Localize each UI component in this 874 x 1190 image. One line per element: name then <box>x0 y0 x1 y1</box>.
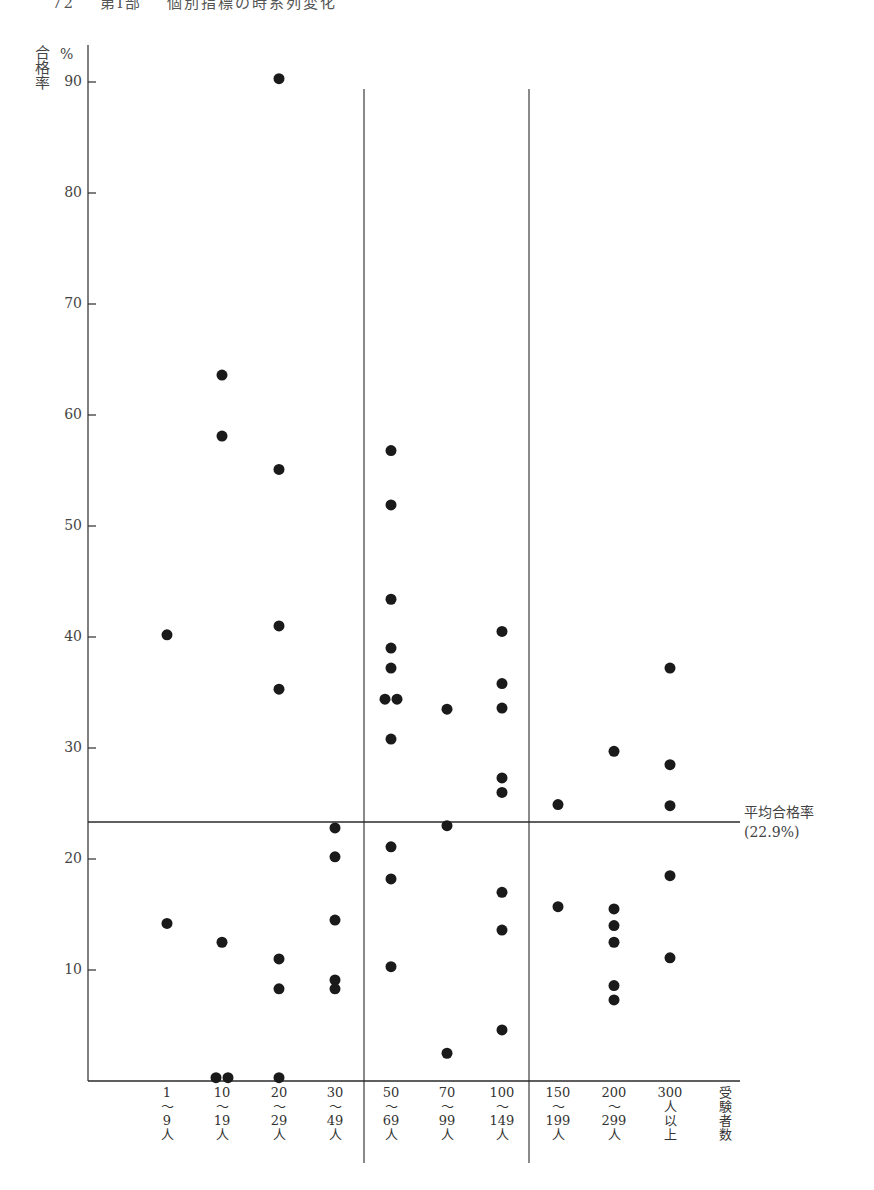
data-point <box>223 1072 234 1083</box>
x-category-label: 1〜9人 <box>147 1086 187 1142</box>
data-point <box>665 800 676 811</box>
x-category-label-part: 50 <box>371 1086 411 1100</box>
data-point <box>274 1072 285 1083</box>
data-point <box>392 694 403 705</box>
data-point <box>442 1048 453 1059</box>
average-value-text: (22.9%) <box>744 822 814 842</box>
x-category-label-part: 〜 <box>538 1100 578 1114</box>
data-point <box>330 915 341 926</box>
data-point <box>274 983 285 994</box>
data-point <box>217 431 228 442</box>
y-tick-label: 90 <box>52 73 82 89</box>
y-tick-label: 30 <box>52 739 82 755</box>
x-category-label-part: 200 <box>594 1086 634 1100</box>
data-point <box>497 925 508 936</box>
data-point <box>665 759 676 770</box>
scatter-plot <box>0 0 874 1190</box>
data-point <box>497 772 508 783</box>
data-point <box>442 820 453 831</box>
x-category-label-part: 9 <box>147 1114 187 1128</box>
x-category-label-part: 69 <box>371 1114 411 1128</box>
y-tick-label: 20 <box>52 850 82 866</box>
data-point <box>609 937 620 948</box>
x-category-label-part: 人 <box>371 1128 411 1142</box>
data-point <box>497 787 508 798</box>
x-category-label-part: 30 <box>315 1086 355 1100</box>
data-point <box>497 626 508 637</box>
data-point <box>665 870 676 881</box>
data-point <box>386 445 397 456</box>
data-point <box>162 918 173 929</box>
x-category-label-part: 300 <box>650 1086 690 1100</box>
data-point <box>609 920 620 931</box>
y-tick-label: 70 <box>52 295 82 311</box>
x-category-label-part: 〜 <box>427 1100 467 1114</box>
x-category-label: 20〜29人 <box>259 1086 299 1142</box>
data-point <box>274 620 285 631</box>
data-point <box>386 594 397 605</box>
data-point <box>274 464 285 475</box>
x-category-label-part: 人 <box>427 1128 467 1142</box>
data-point <box>386 663 397 674</box>
x-category-label-part: 人 <box>594 1128 634 1142</box>
data-point <box>553 799 564 810</box>
data-point <box>274 73 285 84</box>
x-axis-title-char: 受 <box>705 1086 745 1100</box>
data-point <box>386 643 397 654</box>
y-tick-label: 80 <box>52 184 82 200</box>
data-point <box>609 980 620 991</box>
x-axis-title-char: 験 <box>705 1100 745 1114</box>
x-category-label: 10〜19人 <box>202 1086 242 1142</box>
x-category-label-part: 100 <box>482 1086 522 1100</box>
average-label-text: 平均合格率 <box>744 802 814 822</box>
x-category-label-part: 150 <box>538 1086 578 1100</box>
data-point <box>217 937 228 948</box>
data-point <box>609 903 620 914</box>
data-point <box>665 952 676 963</box>
x-category-label-part: 20 <box>259 1086 299 1100</box>
x-category-label-part: 人 <box>315 1128 355 1142</box>
data-point <box>497 887 508 898</box>
x-category-label: 50〜69人 <box>371 1086 411 1142</box>
data-point <box>386 499 397 510</box>
data-point <box>609 746 620 757</box>
x-category-label-part: 〜 <box>315 1100 355 1114</box>
data-point <box>386 873 397 884</box>
data-point <box>497 703 508 714</box>
y-tick-label: 40 <box>52 628 82 644</box>
data-point <box>442 704 453 715</box>
x-category-label-part: 以 <box>650 1114 690 1128</box>
data-point <box>162 629 173 640</box>
x-category-label-part: 人 <box>259 1128 299 1142</box>
x-category-label-part: 人 <box>202 1128 242 1142</box>
x-category-label-part: 人 <box>538 1128 578 1142</box>
data-point <box>497 678 508 689</box>
x-category-label-part: 29 <box>259 1114 299 1128</box>
data-point <box>274 953 285 964</box>
x-category-label-part: 99 <box>427 1114 467 1128</box>
data-point <box>386 734 397 745</box>
y-tick-label: 60 <box>52 406 82 422</box>
data-point <box>386 841 397 852</box>
data-point <box>380 694 391 705</box>
x-category-label-part: 〜 <box>371 1100 411 1114</box>
x-category-label: 150〜199人 <box>538 1086 578 1142</box>
x-category-label-part: 10 <box>202 1086 242 1100</box>
data-point <box>274 684 285 695</box>
x-category-label-part: 人 <box>650 1100 690 1114</box>
y-tick-label: 10 <box>52 961 82 977</box>
x-category-label-part: 1 <box>147 1086 187 1100</box>
x-category-label-part: 〜 <box>482 1100 522 1114</box>
y-tick-label: 50 <box>52 517 82 533</box>
x-category-label-part: 19 <box>202 1114 242 1128</box>
data-point <box>665 663 676 674</box>
data-point <box>217 370 228 381</box>
x-category-label-part: 199 <box>538 1114 578 1128</box>
x-category-label-part: 〜 <box>594 1100 634 1114</box>
x-category-label: 200〜299人 <box>594 1086 634 1142</box>
x-category-label-part: 上 <box>650 1128 690 1142</box>
x-axis-title: 受験者数 <box>705 1086 745 1142</box>
x-category-label-part: 49 <box>315 1114 355 1128</box>
x-category-label-part: 〜 <box>202 1100 242 1114</box>
data-point <box>609 994 620 1005</box>
